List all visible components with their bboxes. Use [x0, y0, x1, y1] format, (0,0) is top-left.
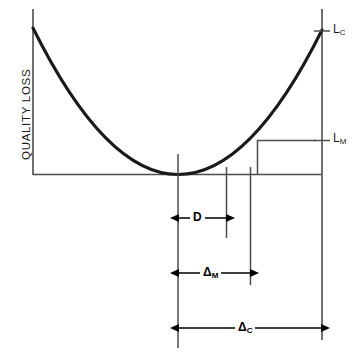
lm-label-main: L	[333, 131, 340, 145]
plot-canvas	[0, 0, 363, 355]
delta-c-label-main: Δ	[238, 320, 247, 334]
delta-c-dimension-label: ΔC	[235, 320, 255, 334]
delta-c-label-subscript: C	[247, 326, 253, 335]
quality-loss-curve	[33, 28, 322, 175]
lc-label-subscript: C	[340, 28, 346, 37]
delta-m-label-subscript: M	[212, 271, 219, 280]
lm-label-subscript: M	[340, 137, 347, 146]
quality-loss-function-figure: QUALITY LOSS LC LM D ΔM ΔC	[0, 0, 363, 355]
d-dimension-label: D	[190, 210, 205, 224]
delta-m-dimension-label: ΔM	[200, 265, 221, 279]
delta-m-label-main: Δ	[203, 265, 212, 279]
d-label-main: D	[193, 210, 202, 224]
lc-value-label: LC	[333, 22, 345, 36]
lm-value-label: LM	[333, 131, 346, 145]
lc-label-main: L	[333, 22, 340, 36]
y-axis-title: QUALITY LOSS	[20, 10, 32, 160]
